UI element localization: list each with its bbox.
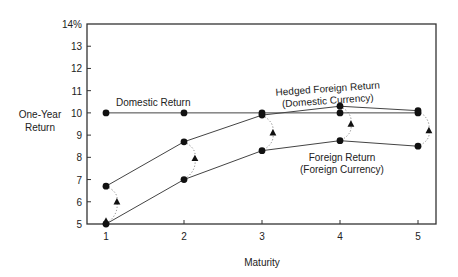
triangle-marker: [114, 198, 121, 204]
y-tick-label: 5: [76, 219, 82, 230]
circle-marker: [103, 221, 110, 228]
circle-marker: [181, 176, 188, 183]
circle-marker: [103, 109, 110, 116]
circle-marker: [181, 109, 188, 116]
plot-frame: [87, 24, 436, 224]
circle-marker: [337, 137, 344, 144]
x-tick-label: 2: [181, 231, 187, 242]
y-tick-label: 6: [76, 197, 82, 208]
circle-marker: [181, 138, 188, 145]
circle-marker: [337, 109, 344, 116]
foreign-return-label: (Foreign Currency): [300, 164, 384, 175]
x-tick-label: 3: [259, 231, 265, 242]
x-tick-label: 1: [103, 231, 109, 242]
y-tick-label: 13: [71, 41, 83, 52]
x-axis-label: Maturity: [244, 257, 280, 268]
y-axis-label-line1: One-Year: [19, 109, 62, 120]
circle-marker: [259, 112, 266, 119]
y-tick-label: 11: [72, 86, 83, 97]
y-tick-label: 8: [76, 152, 82, 163]
domestic-return-label: Domestic Return: [116, 97, 190, 108]
y-tick-label: 9: [76, 130, 82, 141]
triangle-marker: [426, 127, 433, 133]
y-tick-label: 14%: [62, 19, 82, 30]
circle-marker: [415, 107, 422, 114]
y-axis-label-line2: Return: [25, 122, 55, 133]
axes: 14%131211109876512345: [62, 19, 436, 242]
triangle-marker: [348, 120, 355, 126]
circle-marker: [415, 143, 422, 150]
yield-chart: 14%131211109876512345 Domestic ReturnHed…: [0, 0, 458, 277]
annotations: Domestic ReturnHedged Foreign Return(Dom…: [116, 79, 384, 175]
x-tick-label: 4: [337, 231, 343, 242]
circle-marker: [103, 183, 110, 190]
y-tick-label: 10: [71, 108, 83, 119]
triangle-marker: [192, 155, 199, 161]
triangle-marker: [270, 129, 277, 135]
circle-marker: [259, 147, 266, 154]
y-tick-label: 12: [71, 63, 83, 74]
x-tick-label: 5: [415, 231, 421, 242]
foreign-return-label: Foreign Return: [309, 152, 376, 163]
y-tick-label: 7: [76, 175, 82, 186]
dotted-connector: [418, 111, 429, 147]
